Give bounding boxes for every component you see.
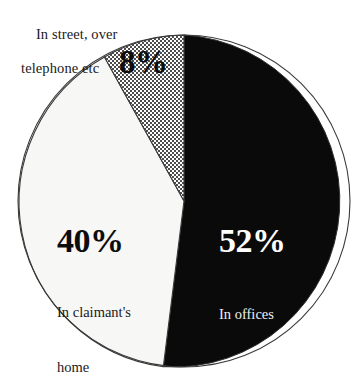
slice-value-in-claimants-home: 40% (57, 224, 131, 258)
slice-label-group-in-claimants-home: 40% In claimant's home (57, 186, 131, 389)
slice-label-in-street-line1: In street, over (36, 26, 118, 42)
slice-label-in-street-callout: In street, over telephone etc (21, 9, 118, 112)
slice-sublabel-in-offices: In offices (219, 305, 286, 323)
slice-label-in-street-line2: telephone etc (21, 60, 118, 77)
pie-chart-figure: In street, over telephone etc 8% 40% In … (0, 0, 363, 389)
slice-sublabel-in-claimants-home-line2: home (57, 358, 131, 376)
slice-value-in-offices: 52% (219, 224, 286, 258)
slice-value-in-street: 8% (119, 43, 168, 82)
slice-label-group-in-offices: 52% In offices (219, 186, 286, 360)
slice-sublabel-in-claimants-home-line1: In claimant's (57, 303, 131, 321)
